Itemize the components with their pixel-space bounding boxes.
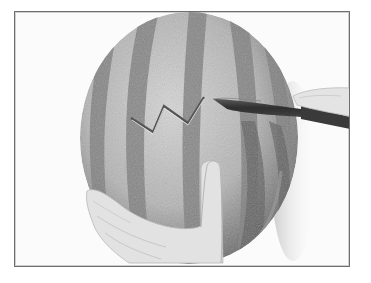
photo-frame	[14, 11, 350, 267]
watermelon-photo	[14, 11, 350, 267]
